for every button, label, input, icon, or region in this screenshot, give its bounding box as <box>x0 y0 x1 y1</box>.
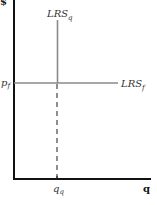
pf-label: pf <box>1 77 11 90</box>
lrs-q-label: LRSq <box>46 8 73 22</box>
lrs-f-label: LRSf <box>120 78 146 92</box>
supply-chart: $ LRSq pf LRSf qq q <box>0 0 157 205</box>
qq-label: qq <box>53 183 64 196</box>
y-axis-label: $ <box>0 0 7 7</box>
x-axis-label: q <box>143 183 150 194</box>
